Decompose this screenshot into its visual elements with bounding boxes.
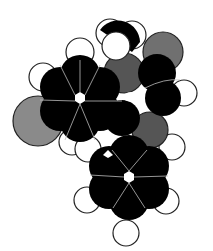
molecule-diagram xyxy=(0,0,213,251)
